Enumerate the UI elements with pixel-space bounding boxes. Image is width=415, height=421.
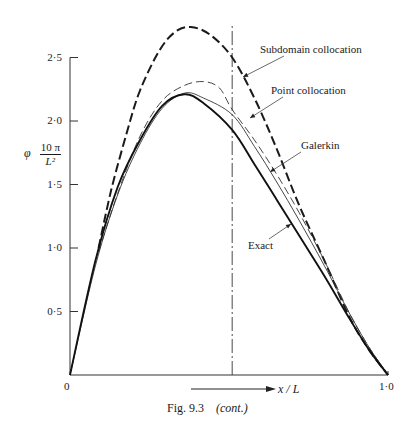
x-axis-label: x / L (278, 383, 299, 395)
series-galerkin (70, 93, 388, 375)
label-galerkin: Galerkin (301, 140, 339, 151)
y-tick-label: 0·5 (32, 306, 62, 317)
chart-plot-area (0, 0, 415, 421)
leader-line (243, 56, 284, 77)
x-tick-label-1: 1·0 (379, 381, 394, 392)
leader-arrowhead-icon (286, 224, 291, 229)
y-tick-label: 2·0 (32, 115, 62, 126)
caption-note: (cont.) (216, 401, 248, 415)
leader-line (270, 152, 301, 172)
axes (70, 24, 388, 392)
y-axis-factor-numerator: 10 π (40, 141, 61, 155)
label-exact: Exact (248, 240, 273, 251)
y-axis-factor-denominator: L² (40, 155, 61, 167)
leader-line (250, 97, 283, 118)
y-axis-label: φ 10 π L² (24, 141, 61, 167)
y-tick-label: 1·5 (32, 179, 62, 190)
label-subdomain-collocation: Subdomain collocation (260, 44, 362, 55)
figure-caption: Fig. 9.3 (cont.) (167, 401, 248, 416)
y-axis-symbol: φ (24, 146, 31, 160)
label-point-collocation: Point collocation (271, 85, 346, 96)
leader-arrowhead-icon (250, 114, 255, 119)
arrowhead-icon (266, 386, 276, 392)
series-exact (70, 94, 388, 375)
caption-main: Fig. 9.3 (167, 401, 204, 415)
series-point-collocation (99, 82, 388, 375)
y-tick-label: 1·0 (32, 242, 62, 253)
y-axis-factor: 10 π L² (40, 141, 61, 167)
curves (70, 27, 388, 375)
x-tick-label-0: 0 (64, 381, 70, 392)
series-subdomain-collocation (99, 27, 388, 375)
y-tick-label: 2·5 (32, 52, 62, 63)
